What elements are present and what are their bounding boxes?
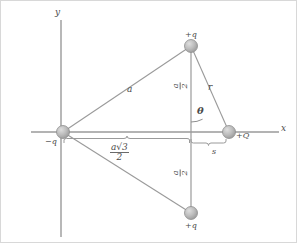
charge-sphere-bottom xyxy=(185,207,198,220)
side-a-label: a xyxy=(127,85,132,94)
half-a-lower-label: a 2 xyxy=(173,164,189,182)
distance-r-label: r xyxy=(208,83,212,92)
base-length-label: a√3 2 xyxy=(110,143,129,163)
half-a-upper-label: a 2 xyxy=(173,77,189,95)
base-length-numerator: a√3 xyxy=(110,143,129,152)
charge-sphere-top xyxy=(185,40,198,53)
y-axis-label: y xyxy=(55,8,60,17)
half-a-lower-denominator: 2 xyxy=(181,169,190,176)
charge-label-bottom-positive-q: +q xyxy=(185,222,197,230)
physics-diagram-figure: y x −q +q +q +Q a r θ s a 2 a 2 a√3 2 xyxy=(0,0,297,243)
x-axis-label: x xyxy=(281,124,286,133)
theta-angle-label: θ xyxy=(197,106,204,116)
charge-label-negative-q: −q xyxy=(45,138,57,146)
charge-sphere-origin xyxy=(57,126,70,139)
charge-label-top-positive-q: +q xyxy=(185,31,197,39)
half-a-upper-denominator: 2 xyxy=(181,82,190,89)
theta-angle-arc xyxy=(191,119,203,122)
charge-label-test-positive-Q: +Q xyxy=(236,132,249,140)
s-distance-label: s xyxy=(212,148,216,156)
diagram-canvas xyxy=(1,1,297,243)
base-length-denominator: 2 xyxy=(110,152,129,162)
charge-sphere-test xyxy=(223,126,236,139)
s-measure-brace xyxy=(191,139,226,146)
